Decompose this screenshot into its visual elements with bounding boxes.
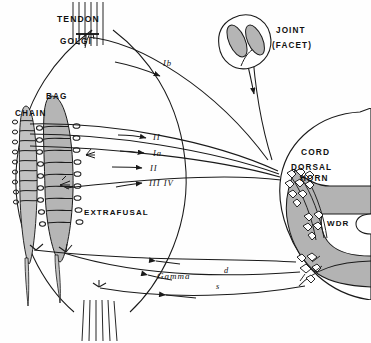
label-wdr: WDR	[327, 219, 349, 228]
tendon-bottom	[82, 300, 117, 341]
label-bag: BAG	[46, 92, 68, 101]
label-afferent-II-upper: II	[152, 132, 161, 142]
label-gamma-static: s	[216, 282, 220, 291]
diagram-canvas: TENDON GOLGI BAG CHAIN EXTRAFUSAL JOINT …	[0, 0, 371, 343]
label-chain: CHAIN	[15, 109, 46, 118]
intrafusal-bag-fiber	[37, 96, 83, 303]
spinal-cord	[280, 108, 371, 300]
label-afferent-II-lower: II	[149, 163, 158, 173]
joint-facet	[219, 15, 271, 69]
label-joint: JOINT	[276, 26, 306, 35]
fiber-alpha-motor	[100, 286, 305, 295]
label-extrafusal: EXTRAFUSAL	[84, 208, 149, 217]
label-afferent-III-IV: III IV	[148, 178, 175, 188]
label-gamma-dynamic: d	[224, 266, 229, 275]
label-facet: (FACET)	[272, 41, 312, 50]
label-afferent-Ia: Ia	[152, 148, 162, 158]
spindle-reflex-diagram: TENDON GOLGI BAG CHAIN EXTRAFUSAL JOINT …	[0, 0, 371, 343]
label-golgi: GOLGI	[60, 37, 92, 46]
label-gamma: Gamma	[157, 271, 191, 281]
intrafusal-chain-fiber	[12, 106, 41, 306]
label-tendon: TENDON	[57, 14, 100, 24]
muscle-belly	[16, 30, 186, 312]
label-dorsal: DORSAL	[291, 163, 332, 172]
label-afferent-Ib: Ib	[162, 58, 172, 68]
label-cord: CORD	[301, 147, 330, 157]
label-horn: HORN	[300, 174, 329, 183]
